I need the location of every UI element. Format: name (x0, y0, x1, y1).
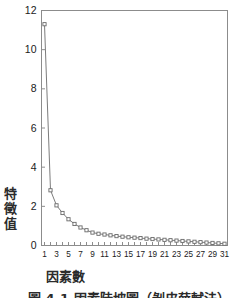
x-tick-label: 13 (112, 250, 122, 259)
data-point-marker (115, 235, 118, 238)
x-tick-label: 31 (220, 250, 230, 259)
plot-frame (42, 11, 228, 246)
chart-canvas: 024681012 135791113151719212325272931 (0, 0, 237, 298)
y-tick-label: 2 (31, 200, 37, 212)
y-axis-title: 特 徵 值 (2, 186, 19, 231)
x-axis-ticks: 135791113151719212325272931 (42, 242, 229, 259)
data-point-marker (205, 241, 208, 244)
scree-plot-figure: 024681012 135791113151719212325272931 特 … (0, 0, 237, 298)
y-tick-label: 10 (25, 43, 37, 55)
data-point-marker (169, 239, 172, 242)
x-tick-label: 5 (66, 250, 71, 259)
data-point-marker (61, 211, 64, 214)
data-point-marker (211, 241, 214, 244)
figure-caption: 圖 4-1 因素陡坡圖（剝皮薛軾法） (28, 288, 237, 298)
x-tick-label: 23 (172, 250, 182, 259)
x-tick-label: 3 (54, 250, 59, 259)
x-tick-label: 1 (42, 250, 47, 259)
scree-plot-svg: 024681012 135791113151719212325272931 (0, 0, 237, 298)
y-axis-title-char-3: 值 (4, 216, 17, 231)
x-tick-label: 25 (184, 250, 194, 259)
data-point-marker (91, 231, 94, 234)
y-tick-label: 6 (31, 122, 37, 134)
x-tick-label: 27 (196, 250, 206, 259)
data-point-marker (49, 189, 52, 192)
data-point-marker (175, 239, 178, 242)
x-tick-label: 7 (78, 250, 83, 259)
y-tick-label: 8 (31, 82, 37, 94)
x-tick-label: 21 (160, 250, 170, 259)
data-point-marker (139, 236, 142, 239)
data-point-marker (151, 237, 154, 240)
data-point-marker (67, 218, 70, 221)
data-series-line (45, 24, 225, 244)
data-point-marker (181, 239, 184, 242)
x-tick-label: 29 (208, 250, 218, 259)
data-point-marker (109, 234, 112, 237)
x-tick-label: 11 (100, 250, 109, 259)
data-point-marker (55, 204, 58, 207)
data-point-marker (43, 23, 46, 26)
data-point-marker (79, 226, 82, 229)
data-point-marker (187, 240, 190, 243)
data-series-markers (43, 23, 226, 246)
x-tick-label: 9 (90, 250, 95, 259)
data-point-marker (85, 229, 88, 232)
data-point-marker (157, 238, 160, 241)
y-tick-label: 12 (25, 4, 37, 16)
data-point-marker (217, 242, 220, 245)
x-axis-title: 因素數 (46, 266, 85, 285)
x-tick-label: 17 (136, 250, 146, 259)
y-axis-title-char-1: 特 (4, 186, 17, 201)
x-tick-label: 15 (124, 250, 134, 259)
data-point-marker (127, 236, 130, 239)
y-axis-title-char-2: 徵 (4, 201, 17, 216)
data-point-marker (73, 222, 76, 225)
y-tick-label: 4 (31, 161, 37, 173)
data-point-marker (103, 233, 106, 236)
x-tick-label: 19 (148, 250, 158, 259)
data-point-marker (121, 235, 124, 238)
data-point-marker (97, 232, 100, 235)
data-point-marker (145, 237, 148, 240)
y-tick-label: 0 (31, 239, 37, 251)
data-point-marker (193, 240, 196, 243)
data-point-marker (199, 241, 202, 244)
data-point-marker (223, 242, 226, 245)
data-point-marker (133, 236, 136, 239)
data-point-marker (163, 238, 166, 241)
